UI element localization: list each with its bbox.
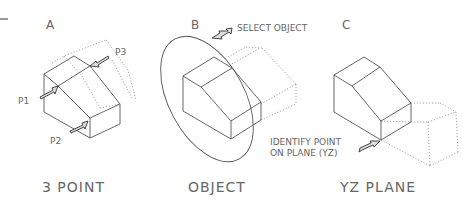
figure-b-caption: OBJECT xyxy=(188,179,246,195)
figure-a-letter: A xyxy=(46,18,55,32)
select-object-arrow-icon xyxy=(212,28,232,39)
p1-label: P1 xyxy=(18,96,29,106)
figure-b-letter: B xyxy=(191,18,200,32)
ucs-options-diagram: A P1 P2 P3 3 POINT xyxy=(0,0,472,206)
b-block xyxy=(183,57,261,139)
on-plane-label: ON PLANE (YZ) xyxy=(270,148,337,158)
figure-a-caption: 3 POINT xyxy=(42,179,105,195)
selection-ellipse xyxy=(142,21,273,177)
c-hidden-box xyxy=(381,103,458,166)
identify-point-label: IDENTIFY POINT xyxy=(270,137,342,147)
select-object-label: SELECT OBJECT xyxy=(237,23,308,33)
p2-arrow-icon xyxy=(70,121,88,133)
identify-point-arrow-icon xyxy=(359,141,380,152)
figure-c-letter: C xyxy=(342,18,351,32)
p2-label: P2 xyxy=(50,136,61,146)
p1-arrow-icon xyxy=(40,86,58,99)
p3-label: P3 xyxy=(115,47,126,57)
figure-b: B SELECT OBJECT OBJECT xyxy=(142,18,308,195)
p3-arrow-icon xyxy=(90,56,109,67)
figure-a: A P1 P2 P3 3 POINT xyxy=(18,18,136,195)
b-hidden-outline xyxy=(228,47,296,120)
figure-c: C IDENTIFY POINT ON PLANE (YZ) YZ PLANE xyxy=(270,18,458,195)
figure-c-caption: YZ PLANE xyxy=(339,179,416,195)
c-block xyxy=(334,57,411,140)
